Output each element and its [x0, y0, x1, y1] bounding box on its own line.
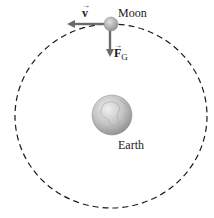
velocity-vector	[67, 20, 104, 28]
earth	[92, 95, 132, 135]
moon-orbit-diagram: → v Moon → FG Earth	[0, 0, 214, 218]
gravity-force-label: → FG	[114, 47, 128, 59]
vector-arrow-accent: →	[114, 42, 122, 50]
moon-label: Moon	[118, 7, 147, 19]
gravity-vector	[106, 30, 114, 57]
gravity-subscript: G	[121, 52, 128, 62]
velocity-label: → v	[82, 7, 88, 19]
earth-label: Earth	[118, 139, 144, 151]
diagram-svg	[0, 0, 214, 218]
vector-arrow-accent: →	[82, 2, 90, 10]
moon	[104, 17, 118, 31]
